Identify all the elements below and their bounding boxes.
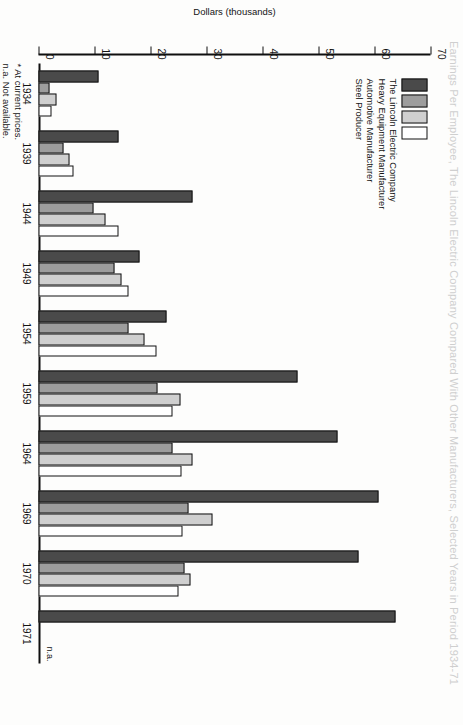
value-axis-title: Dollars (thousands): [193, 6, 275, 17]
bar: [38, 165, 73, 177]
bar: [38, 142, 63, 154]
category-label: 1939: [20, 142, 31, 164]
footnote-not-available: n.a. Not available.: [0, 63, 12, 140]
bar: [38, 405, 172, 417]
bar: [38, 382, 157, 394]
value-tick: [206, 46, 207, 54]
bar-group: 1969: [38, 483, 430, 543]
bar: [38, 490, 378, 502]
bar: [38, 573, 190, 585]
category-label: 1969: [20, 502, 31, 524]
value-tick: [150, 46, 151, 54]
value-tick: [318, 46, 319, 54]
bar: [38, 393, 180, 405]
bar-group: 1959: [38, 363, 430, 423]
bar: [38, 465, 181, 477]
bar: [38, 610, 395, 622]
category-label: 1964: [20, 442, 31, 464]
bar-group: 1944: [38, 183, 430, 243]
chart-canvas: Earnings Per Employee, The Lincoln Elect…: [0, 0, 463, 725]
category-label: 1954: [20, 322, 31, 344]
bar: [38, 250, 139, 262]
bar: [38, 153, 69, 165]
bar-group: 1939: [38, 123, 430, 183]
bar: [38, 213, 105, 225]
bar: [38, 273, 121, 285]
bar-group: 1949: [38, 243, 430, 303]
value-tick-label: 50: [324, 39, 335, 59]
value-tick-label: 30: [212, 39, 223, 59]
bar: [38, 513, 212, 525]
bar: [38, 430, 337, 442]
bar-group: 1934: [38, 63, 430, 123]
bar: [38, 322, 128, 334]
bar-group: 1954: [38, 303, 430, 363]
bar: [38, 190, 192, 202]
category-label: 1959: [20, 382, 31, 404]
value-tick: [374, 46, 375, 54]
bar: [38, 93, 56, 105]
bar: [38, 333, 144, 345]
value-axis-line: [38, 53, 430, 55]
bar: [38, 585, 178, 597]
chart-title: Earnings Per Employee, The Lincoln Elect…: [447, 0, 459, 725]
bar-group: 1970: [38, 543, 430, 603]
bar-group: 1964: [38, 423, 430, 483]
category-label: 1949: [20, 262, 31, 284]
category-label: 1944: [20, 202, 31, 224]
bar: [38, 82, 49, 94]
bar: [38, 562, 184, 574]
value-tick: [430, 46, 431, 54]
bar: [38, 370, 297, 382]
na-annotation: n.a.: [44, 646, 54, 661]
plot-area: Dollars (thousands) 01020304050607019341…: [38, 63, 430, 663]
value-tick: [262, 46, 263, 54]
bar: [38, 130, 118, 142]
value-tick-label: 0: [44, 39, 55, 59]
bar: [38, 105, 51, 117]
bar: [38, 345, 156, 357]
footnote-current-prices: * At current prices.: [12, 63, 24, 140]
value-tick: [38, 46, 39, 54]
bar: [38, 550, 358, 562]
bar: [38, 225, 118, 237]
value-tick-label: 10: [100, 39, 111, 59]
bar: [38, 525, 182, 537]
value-tick-label: 70: [436, 39, 447, 59]
category-label: 1971: [20, 622, 31, 644]
bar: [38, 502, 188, 514]
value-tick-label: 60: [380, 39, 391, 59]
bar: [38, 262, 114, 274]
chart-footnotes: * At current prices. n.a. Not available.: [0, 63, 23, 140]
bar: [38, 285, 128, 297]
bar: [38, 442, 172, 454]
bar: [38, 453, 192, 465]
bar: [38, 70, 98, 82]
value-tick: [94, 46, 95, 54]
bar-group: n.a.1971: [38, 603, 430, 663]
category-label: 1970: [20, 562, 31, 584]
bar: [38, 310, 166, 322]
bar: [38, 202, 93, 214]
value-tick-label: 20: [156, 39, 167, 59]
value-tick-label: 40: [268, 39, 279, 59]
